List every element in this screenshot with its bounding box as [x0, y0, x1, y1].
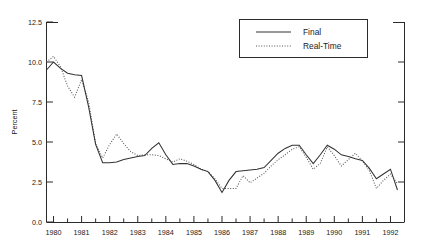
x-tick-label-1982: 1982	[102, 228, 118, 237]
x-tick-label-1981: 1981	[74, 228, 90, 237]
x-tick-label-1992: 1992	[382, 228, 398, 237]
line-chart: 0.0 2.5 5.0 7.5 10.0 12.5 Percent 198019…	[0, 0, 423, 251]
chart-container: 0.0 2.5 5.0 7.5 10.0 12.5 Percent 198019…	[0, 0, 423, 251]
x-tick-label-1985: 1985	[186, 228, 202, 237]
y-tick-label-0: 0.0	[32, 218, 42, 227]
legend-box	[240, 20, 368, 58]
legend: Final Real-Time	[240, 20, 368, 58]
legend-label-real-time: Real-Time	[303, 41, 342, 51]
legend-label-final: Final	[303, 27, 321, 37]
x-tick-label-1988: 1988	[270, 228, 286, 237]
x-tick-label-1991: 1991	[354, 228, 370, 237]
y-tick-label-1: 2.5	[32, 178, 42, 187]
x-tick-label-1986: 1986	[214, 228, 230, 237]
y-tick-label-4: 10.0	[28, 58, 42, 67]
y-axis-title: Percent	[10, 110, 19, 135]
x-tick-label-1983: 1983	[130, 228, 146, 237]
y-tick-label-3: 7.5	[32, 98, 42, 107]
x-tick-label-1980: 1980	[46, 228, 62, 237]
x-tick-label-1987: 1987	[242, 228, 258, 237]
y-tick-label-2: 5.0	[32, 138, 42, 147]
x-tick-label-1989: 1989	[298, 228, 314, 237]
y-tick-label-5: 12.5	[28, 18, 42, 27]
x-tick-label-1990: 1990	[326, 228, 342, 237]
x-tick-label-1984: 1984	[158, 228, 174, 237]
